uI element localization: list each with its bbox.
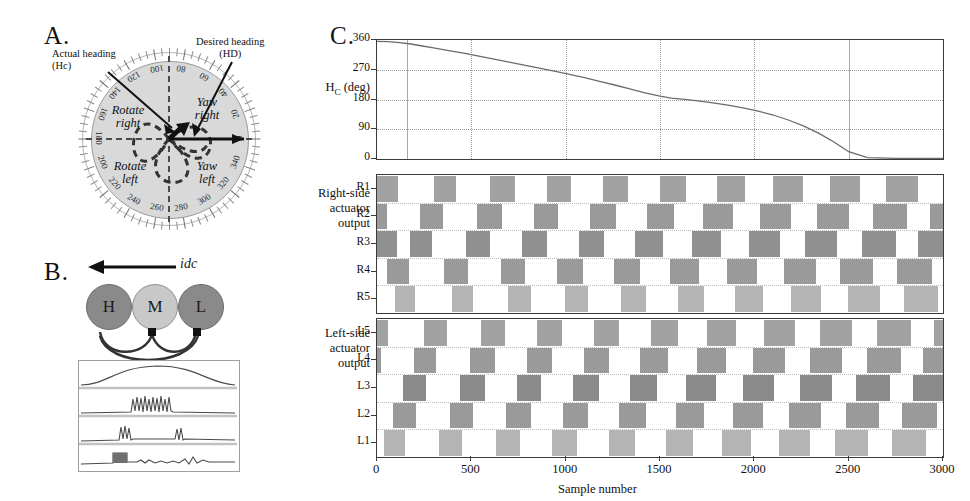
raster-row-tick	[371, 359, 376, 360]
raster-burst-band	[393, 403, 416, 429]
heading-y-tick-mark	[371, 128, 376, 129]
left-actuator-plot	[376, 318, 944, 458]
quadrant-yaw-right-l2: right	[182, 109, 232, 122]
synapse-terminal-m	[148, 328, 156, 336]
raster-row-label: L2	[348, 407, 370, 419]
raster-burst-band	[466, 231, 491, 257]
raster-row-label: L3	[348, 379, 370, 391]
raster-burst-band	[590, 204, 615, 230]
raster-burst-band	[651, 320, 678, 346]
raster-burst-band	[584, 348, 609, 374]
raster-row-tick	[371, 188, 376, 189]
raster-burst-band	[840, 259, 873, 285]
raster-burst-band	[902, 403, 937, 429]
raster-burst-band	[692, 231, 721, 257]
raster-burst-band	[517, 375, 542, 401]
raster-burst-band	[579, 231, 604, 257]
raster-row-label: L4	[348, 351, 370, 363]
raster-row-tick	[371, 442, 376, 443]
idc-arrow	[0, 248, 330, 288]
right-actuator-plot	[376, 174, 944, 314]
raster-burst-band	[420, 204, 443, 230]
heading-y-tick-label: 360	[336, 31, 370, 43]
quadrant-yaw-left-l2: left	[182, 173, 232, 186]
raster-burst-band	[886, 176, 918, 202]
raster-burst-band	[573, 375, 598, 401]
raster-burst-band	[439, 430, 462, 456]
x-axis-tick-label: 0	[354, 462, 398, 477]
raster-burst-band	[506, 403, 531, 429]
raster-burst-band	[722, 430, 751, 456]
heading-y-tick-mark	[371, 158, 376, 159]
x-axis-tick-mark	[659, 456, 660, 461]
raster-burst-band	[527, 348, 552, 374]
panel-b: B. idc H M L	[0, 248, 330, 501]
idc-arrowhead	[88, 260, 104, 274]
heading-y-tick-label: 0	[336, 150, 370, 162]
raster-burst-band	[470, 348, 495, 374]
raster-burst-band	[686, 375, 715, 401]
synapse-terminal-l	[193, 328, 201, 336]
raster-burst-band	[817, 204, 849, 230]
raster-row-divider	[377, 203, 943, 204]
raster-burst-band	[450, 403, 474, 429]
x-axis-tick-mark	[565, 456, 566, 461]
raster-burst-band	[773, 176, 803, 202]
raster-burst-band	[414, 348, 437, 374]
activity-traces	[79, 361, 237, 469]
raster-burst-band	[603, 176, 628, 202]
figure-root: A. Actual heading (Hc) Desired heading (…	[0, 0, 970, 501]
raster-burst-band	[395, 286, 415, 312]
raster-burst-band	[490, 176, 515, 202]
raster-burst-band	[547, 176, 572, 202]
raster-row-label: L5	[348, 324, 370, 336]
raster-row-label: R1	[348, 180, 370, 192]
raster-burst-band	[621, 286, 646, 312]
raster-row-label: L1	[348, 434, 370, 446]
raster-burst-band	[904, 286, 938, 312]
raster-burst-band	[707, 320, 736, 346]
raster-row-tick	[371, 298, 376, 299]
panel-c: C. HC (deg) Right-side actuator output L…	[330, 0, 970, 501]
raster-burst-band	[377, 204, 387, 230]
raster-burst-band	[789, 403, 821, 429]
x-axis-tick-mark	[376, 456, 377, 461]
raster-burst-band	[557, 259, 582, 285]
raster-row-label: R2	[348, 207, 370, 219]
heading-gridline-v	[943, 40, 944, 159]
x-axis-tick-mark	[470, 456, 471, 461]
raster-burst-band	[377, 231, 397, 257]
raster-burst-band	[614, 259, 640, 285]
compass-overlay	[78, 48, 260, 230]
raster-burst-band	[537, 320, 562, 346]
raster-burst-band	[670, 259, 698, 285]
heading-y-tick-mark	[371, 39, 376, 40]
raster-burst-band	[647, 204, 674, 230]
raster-burst-band	[835, 430, 867, 456]
raster-burst-band	[848, 286, 880, 312]
raster-burst-band	[733, 403, 763, 429]
raster-row-tick	[371, 387, 376, 388]
raster-row-divider	[377, 429, 943, 430]
trace-neuron-m	[81, 396, 235, 413]
raster-burst-band	[892, 430, 926, 456]
raster-burst-band	[522, 231, 547, 257]
panel-a-letter: A.	[44, 22, 70, 50]
raster-row-tick	[371, 415, 376, 416]
raster-burst-band	[563, 403, 588, 429]
quadrant-yaw-right: Yaw right	[182, 96, 232, 122]
x-axis-tick-mark	[848, 456, 849, 461]
raster-burst-band	[635, 231, 662, 257]
quadrant-rotate-right-l2: right	[100, 117, 156, 130]
raster-burst-band	[918, 231, 943, 257]
raster-burst-band	[749, 231, 780, 257]
raster-burst-band	[452, 286, 474, 312]
x-axis-tick-label: 2500	[826, 462, 870, 477]
x-axis-title: Sample number	[558, 482, 637, 497]
trace-neuron-h	[81, 426, 235, 441]
raster-burst-band	[791, 286, 821, 312]
raster-row-label: R5	[348, 290, 370, 302]
raster-burst-band	[434, 176, 457, 202]
raster-row-label: R3	[348, 235, 370, 247]
raster-burst-band	[867, 348, 901, 374]
